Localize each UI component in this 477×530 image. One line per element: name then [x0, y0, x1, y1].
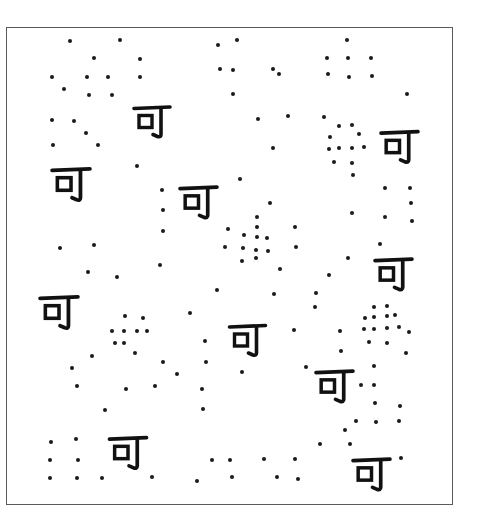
dot	[292, 328, 296, 332]
dot	[266, 249, 270, 253]
dot	[328, 135, 332, 139]
ke-character-glyph-9: 可	[107, 434, 149, 471]
dot	[362, 145, 366, 149]
dot	[50, 75, 54, 79]
dot	[103, 408, 107, 412]
dot	[216, 43, 220, 47]
dot	[215, 288, 219, 292]
ke-character-glyph-2: 可	[379, 128, 420, 165]
ke-glyph-icon	[227, 322, 268, 358]
dot	[106, 75, 110, 79]
dot	[87, 93, 91, 97]
dot	[372, 364, 376, 368]
dot	[347, 75, 351, 79]
dot	[150, 475, 154, 479]
ke-character-glyph-5: 可	[373, 255, 414, 293]
dot	[75, 476, 79, 480]
dot	[350, 211, 354, 215]
dot	[48, 458, 52, 462]
dot	[409, 201, 413, 205]
dot	[271, 146, 275, 150]
dot	[332, 160, 336, 164]
dot	[397, 419, 401, 423]
dot	[141, 316, 145, 320]
dot	[218, 67, 222, 71]
dot	[268, 201, 272, 205]
dot	[278, 267, 282, 271]
ke-glyph-icon	[351, 455, 392, 493]
dot	[90, 354, 94, 358]
dot	[138, 75, 142, 79]
dot	[385, 341, 389, 345]
dot	[75, 384, 79, 388]
dot	[314, 291, 318, 295]
dot	[124, 387, 128, 391]
dot	[350, 161, 354, 165]
dot	[86, 270, 90, 274]
ke-character-glyph-7: 可	[227, 322, 268, 358]
dot	[369, 56, 373, 60]
dot	[373, 401, 377, 405]
ke-character-glyph-4: 可	[178, 183, 219, 221]
dot	[327, 273, 331, 277]
dot	[235, 38, 239, 42]
dot	[262, 457, 266, 461]
dot	[160, 188, 164, 192]
dot	[294, 245, 298, 249]
dot	[399, 456, 403, 460]
dot	[100, 476, 104, 480]
dot	[240, 370, 244, 374]
dot	[135, 329, 139, 333]
dot	[110, 329, 114, 333]
dot	[408, 186, 412, 190]
dot	[158, 263, 162, 267]
dot	[272, 292, 276, 296]
dot	[372, 327, 376, 331]
dot	[231, 68, 235, 72]
dot	[203, 339, 207, 343]
dot	[362, 327, 366, 331]
dot	[255, 235, 259, 239]
dot	[123, 314, 127, 318]
dot	[338, 329, 342, 333]
dot	[200, 387, 204, 391]
dot	[346, 56, 350, 60]
dot	[58, 246, 62, 250]
dot	[122, 341, 126, 345]
dot	[223, 245, 227, 249]
dot	[275, 475, 279, 479]
dot	[345, 38, 349, 42]
dot	[76, 458, 80, 462]
dot	[241, 246, 245, 250]
dot	[410, 219, 414, 223]
dot	[348, 442, 352, 446]
dot	[210, 458, 214, 462]
dot	[318, 442, 322, 446]
dot	[68, 39, 72, 43]
dot	[337, 124, 341, 128]
dot	[304, 365, 308, 369]
dot	[118, 38, 122, 42]
dot	[346, 256, 350, 260]
dot	[370, 74, 374, 78]
dot	[277, 72, 281, 76]
dot	[265, 236, 269, 240]
dot	[354, 419, 358, 423]
ke-glyph-icon	[379, 128, 420, 165]
dot	[115, 275, 119, 279]
dot	[374, 420, 378, 424]
dot	[48, 476, 52, 480]
dot	[72, 119, 76, 123]
dot	[343, 428, 347, 432]
ke-glyph-icon	[132, 103, 172, 140]
dot	[350, 123, 354, 127]
dot	[405, 92, 409, 96]
ke-character-glyph-8: 可	[314, 367, 355, 405]
dot	[175, 372, 179, 376]
dot	[92, 243, 96, 247]
dot	[70, 366, 74, 370]
dot	[238, 177, 242, 181]
dot	[398, 404, 402, 408]
dot	[397, 325, 401, 329]
dot	[383, 215, 387, 219]
